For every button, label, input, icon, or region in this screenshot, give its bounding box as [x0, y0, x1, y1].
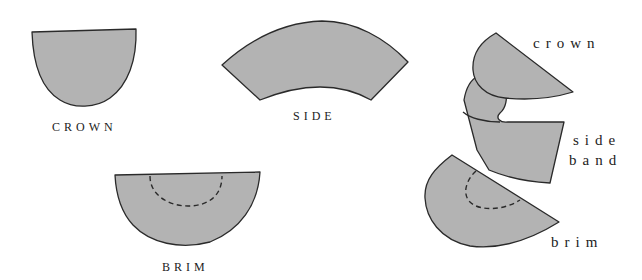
side-piece [222, 21, 408, 100]
brim-label: BRIM [162, 260, 209, 275]
assembly-side-label: side [573, 132, 621, 149]
side-label: SIDE [293, 109, 336, 124]
crown-label: CROWN [52, 120, 117, 135]
assembly-brim-label: brim [551, 234, 603, 251]
assembly-crown-label: crown [533, 35, 601, 52]
crown-piece [32, 29, 136, 106]
brim-piece [115, 172, 260, 245]
assembly-band-label: band [569, 152, 622, 169]
